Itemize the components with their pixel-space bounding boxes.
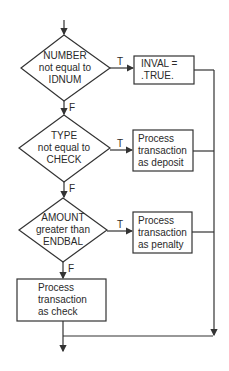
decision-2-label: TYPE not equal to CHECK (22, 130, 106, 166)
process-3-line-1: Process (138, 215, 193, 227)
process-4-label: Process transaction as check (38, 282, 104, 318)
decision-3-line-2: greater than (21, 224, 105, 236)
process-3-line-2: transaction (138, 227, 193, 239)
process-2-line-2: transaction (138, 145, 193, 157)
decision-2-line-3: CHECK (22, 154, 106, 166)
decision-2-line-1: TYPE (22, 130, 106, 142)
process-3-line-3: as penalty (138, 239, 193, 251)
process-1-label: INVAL = .TRUE. (141, 58, 193, 82)
process-2-label: Process transaction as deposit (138, 133, 193, 169)
decision-1-line-1: NUMBER (24, 50, 106, 62)
decision-3-label: AMOUNT greater than ENDBAL (21, 212, 105, 248)
process-3-label: Process transaction as penalty (138, 215, 193, 251)
decision-2-false-label: F (69, 184, 75, 194)
decision-3-false-label: F (68, 264, 74, 274)
decision-1-line-3: IDNUM (24, 74, 106, 86)
decision-1-line-2: not equal to (24, 62, 106, 74)
process-1-line-1: INVAL = (141, 58, 193, 70)
process-4-line-3: as check (38, 306, 104, 318)
decision-3-true-label: T (117, 220, 123, 230)
process-2-line-3: as deposit (138, 157, 193, 169)
decision-2-true-label: T (117, 139, 123, 149)
process-1-line-2: .TRUE. (141, 70, 193, 82)
decision-2-line-2: not equal to (22, 142, 106, 154)
process-2-line-1: Process (138, 133, 193, 145)
process-4-line-1: Process (38, 282, 104, 294)
decision-3-line-3: ENDBAL (21, 236, 105, 248)
decision-1-true-label: T (117, 57, 123, 67)
decision-1-label: NUMBER not equal to IDNUM (24, 50, 106, 86)
decision-1-false-label: F (69, 103, 75, 113)
process-4-line-2: transaction (38, 294, 104, 306)
decision-3-line-1: AMOUNT (21, 212, 105, 224)
